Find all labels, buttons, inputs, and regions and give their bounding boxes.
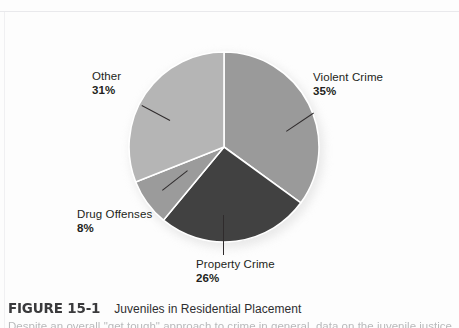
figure-image: Violent Crime 35% Other 31% Drug Offense… [0,0,459,295]
figure-title: Juveniles in Residential Placement [114,302,301,316]
slice-label-name: Violent Crime [313,70,383,84]
caption-body-text: Despite an overall "get tough" approach … [8,320,459,328]
slice-label-percent: 8% [77,221,152,235]
slice-label-property-crime: Property Crime 26% [196,257,275,285]
caption-body-clip: Despite an overall "get tough" approach … [8,320,459,328]
scanned-page: Violent Crime 35% Other 31% Drug Offense… [0,0,459,328]
caption-title-row: FIGURE 15-1 Juveniles in Residential Pla… [8,300,459,316]
pie-chart [127,50,321,244]
slice-label-percent: 31% [92,83,121,97]
slice-label-name: Property Crime [196,257,275,271]
slice-label-drug-offenses: Drug Offenses 8% [77,207,152,235]
figure-number: FIGURE 15-1 [8,300,100,316]
slice-label-other: Other 31% [92,69,121,97]
slice-label-violent-crime: Violent Crime 35% [313,70,383,98]
slice-label-percent: 35% [313,84,383,98]
slice-label-percent: 26% [196,271,275,285]
slice-label-name: Other [92,69,121,83]
figure-caption: FIGURE 15-1 Juveniles in Residential Pla… [8,300,459,328]
leader-line-property [223,215,224,255]
slice-label-name: Drug Offenses [77,207,152,221]
pie-slices [127,50,321,244]
